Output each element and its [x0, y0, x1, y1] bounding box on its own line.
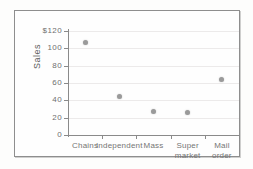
y-tick-label: 80 — [18, 62, 62, 70]
y-tick-mark — [64, 83, 69, 84]
y-tick-label: 60 — [18, 79, 62, 87]
y-tick-label-wrap: 20 — [15, 114, 62, 122]
gridline — [68, 118, 239, 119]
x-axis-line — [68, 135, 240, 136]
chart-figure: Sales 020406080100$120 ChainsIndependent… — [0, 0, 253, 169]
y-tick-label-wrap: 0 — [15, 131, 62, 139]
y-tick-label: 100 — [18, 44, 62, 52]
y-tick-mark — [64, 48, 69, 49]
data-point — [83, 40, 88, 45]
y-tick-mark — [64, 100, 69, 101]
x-tick-mark — [102, 135, 103, 139]
y-tick-mark — [64, 135, 69, 136]
gridline — [68, 48, 239, 49]
gridline — [68, 66, 239, 67]
y-tick-mark — [64, 66, 69, 67]
x-tick-mark — [239, 135, 240, 139]
y-tick-label-wrap: 40 — [15, 96, 62, 104]
y-tick-label: 20 — [18, 114, 62, 122]
x-tick-mark — [136, 135, 137, 139]
y-tick-label: 40 — [18, 96, 62, 104]
x-tick-label: Mail order — [197, 141, 247, 160]
y-tick-label: 0 — [18, 131, 62, 139]
gridline — [68, 31, 239, 32]
x-tick-mark — [171, 135, 172, 139]
gridline — [68, 83, 239, 84]
data-point — [117, 94, 122, 99]
x-tick-mark — [205, 135, 206, 139]
y-tick-label-wrap: 100 — [15, 44, 62, 52]
y-tick-label-wrap: $120 — [15, 27, 62, 35]
y-tick-label-wrap: 80 — [15, 62, 62, 70]
y-tick-label: $120 — [18, 27, 62, 35]
y-tick-label-wrap: 60 — [15, 79, 62, 87]
y-tick-mark — [64, 31, 69, 32]
chart-frame: Sales 020406080100$120 ChainsIndependent… — [14, 10, 240, 157]
gridline — [68, 100, 239, 101]
y-tick-mark — [64, 118, 69, 119]
